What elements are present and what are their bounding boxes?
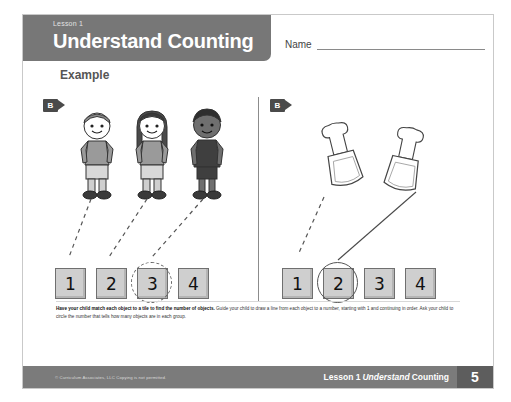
practice-panel: B 1 2 3: [266, 97, 481, 307]
page-number-badge: 5: [457, 366, 493, 388]
tile-value: 2: [333, 274, 344, 294]
tile-row-left: 1 2 3 4: [55, 268, 209, 299]
number-tile[interactable]: 1: [282, 268, 313, 299]
match-line-3: [152, 199, 203, 257]
tile-value: 1: [65, 274, 76, 294]
tile-value: 1: [292, 274, 303, 294]
number-tile[interactable]: 2: [323, 268, 354, 299]
tile-value: 2: [106, 274, 117, 294]
header-banner: Lesson 1 Understand Counting: [23, 15, 271, 61]
match-line-1: [69, 199, 91, 257]
number-tile[interactable]: 2: [96, 268, 127, 299]
copyright-text: © Curriculum Associates, LLC Copying is …: [55, 375, 166, 380]
footer-right-group: Lesson 1 Understand Counting 5: [324, 366, 493, 388]
lesson-kicker: Lesson 1: [53, 20, 83, 27]
number-tile[interactable]: 4: [405, 268, 436, 299]
tile-value: 3: [374, 274, 385, 294]
parent-instructions: Have your child match each object to a t…: [56, 305, 460, 322]
instruction-headline: Have your child match each object to a t…: [56, 306, 215, 311]
footer-lesson-title: Lesson 1 Understand Counting: [324, 366, 457, 388]
example-label: Example: [60, 68, 109, 82]
child-figure-1: [81, 113, 113, 199]
tile-value: 4: [188, 274, 199, 294]
number-tile[interactable]: 3: [137, 268, 168, 299]
name-write-line[interactable]: [317, 39, 485, 50]
tile-value: 4: [415, 274, 426, 294]
match-line-drawn-2: [338, 192, 416, 260]
footer-lesson-prefix: Lesson 1: [324, 372, 361, 382]
number-tile[interactable]: 3: [364, 268, 395, 299]
beach-shovel-1: [318, 119, 364, 188]
match-line-dashed-1: [298, 197, 324, 255]
footer-lesson-italic: Understand: [360, 372, 411, 382]
number-tile[interactable]: 4: [178, 268, 209, 299]
footer-separator: [56, 301, 460, 302]
child-figure-2: [136, 111, 168, 199]
worksheet-page: Lesson 1 Understand Counting Name Exampl…: [22, 14, 494, 389]
page-title: Understand Counting: [53, 30, 254, 53]
panel-divider: [258, 97, 259, 302]
number-tile[interactable]: 1: [55, 268, 86, 299]
footer-lesson-rest: Counting: [412, 372, 449, 382]
name-label: Name: [285, 39, 312, 50]
footer-bar: © Curriculum Associates, LLC Copying is …: [23, 366, 493, 388]
match-line-2: [109, 199, 147, 257]
example-panel: B: [39, 97, 254, 307]
tile-row-right: 1 2 3 4: [282, 268, 436, 299]
beach-shovel-2: [383, 125, 427, 193]
tile-value: 3: [147, 274, 158, 294]
name-field[interactable]: Name: [285, 39, 485, 50]
child-figure-3: [191, 109, 223, 199]
